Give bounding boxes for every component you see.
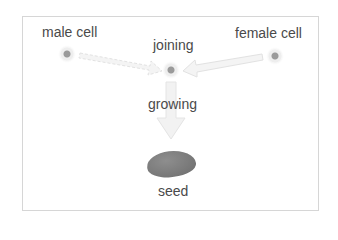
female-cell-icon <box>268 49 282 63</box>
label-female-cell: female cell <box>235 26 302 40</box>
arrow-female-to-joining <box>183 54 263 77</box>
label-male-cell: male cell <box>42 25 97 39</box>
label-growing: growing <box>148 97 197 111</box>
arrow-male-to-joining <box>79 53 162 75</box>
label-seed: seed <box>158 184 188 198</box>
label-joining: joining <box>153 38 193 52</box>
male-cell-icon <box>60 47 74 61</box>
joining-cell-icon <box>164 63 178 77</box>
